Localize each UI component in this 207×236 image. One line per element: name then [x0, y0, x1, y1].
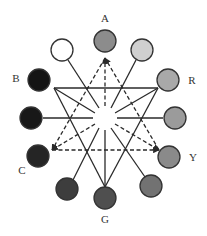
color-node-r [157, 69, 179, 91]
spoke-line [111, 60, 136, 108]
color-node [56, 178, 78, 200]
color-node-g [94, 187, 116, 209]
color-node-b [28, 69, 50, 91]
color-node [51, 39, 73, 61]
spoke-line [111, 128, 145, 177]
spoke-line [68, 60, 99, 108]
node-label-g: G [101, 213, 109, 225]
node-label-y: Y [189, 151, 197, 163]
center-hole [94, 107, 116, 129]
node-label-a: A [101, 12, 109, 24]
color-node-c [27, 145, 49, 167]
color-node-y [158, 146, 180, 168]
color-node [164, 107, 186, 129]
node-label-b: B [12, 72, 19, 84]
color-wheel-diagram: ARYGCB [0, 0, 207, 236]
color-node-a [94, 30, 116, 52]
color-node [140, 175, 162, 197]
color-node [20, 107, 42, 129]
dashed-center-line [52, 124, 95, 150]
spoke-line [73, 128, 99, 180]
node-label-r: R [188, 74, 196, 86]
color-node [131, 39, 153, 61]
node-label-c: C [18, 164, 25, 176]
